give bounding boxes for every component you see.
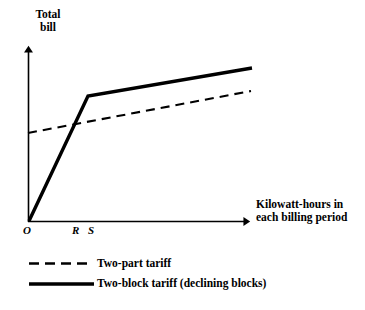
y-axis-title: Totalbill <box>22 8 74 34</box>
x-tick-label-r: R <box>72 224 79 236</box>
y-axis-title-line2: bill <box>22 21 74 34</box>
x-axis-title-line2: each billing period <box>256 211 364 224</box>
x-axis-title-line1: Kilowatt-hours in <box>256 198 343 210</box>
chart-figure: Totalbill Kilowatt-hours ineach billing … <box>0 0 365 310</box>
chart-plot-area <box>0 0 365 310</box>
x-axis-title: Kilowatt-hours ineach billing period <box>256 198 364 224</box>
y-axis-title-line1: Total <box>35 8 60 20</box>
legend-item-two-block-tariff: Two-block tariff (declining blocks) <box>97 277 266 290</box>
series-two-block-tariff <box>29 68 252 221</box>
x-tick-label-s: S <box>88 224 94 236</box>
series-two-part-tariff <box>28 91 251 133</box>
legend-item-two-part-tariff: Two-part tariff <box>97 257 171 270</box>
x-tick-label-o: O <box>23 224 31 236</box>
